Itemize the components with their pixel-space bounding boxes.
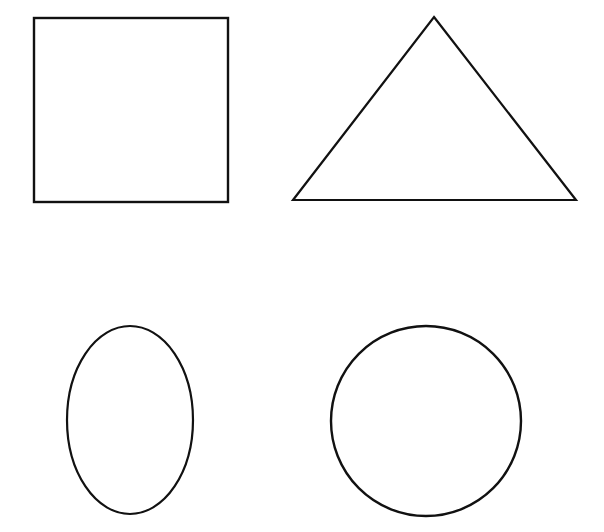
shapes-svg	[0, 0, 604, 532]
shapes-canvas	[0, 0, 604, 532]
background-rect	[0, 0, 604, 532]
